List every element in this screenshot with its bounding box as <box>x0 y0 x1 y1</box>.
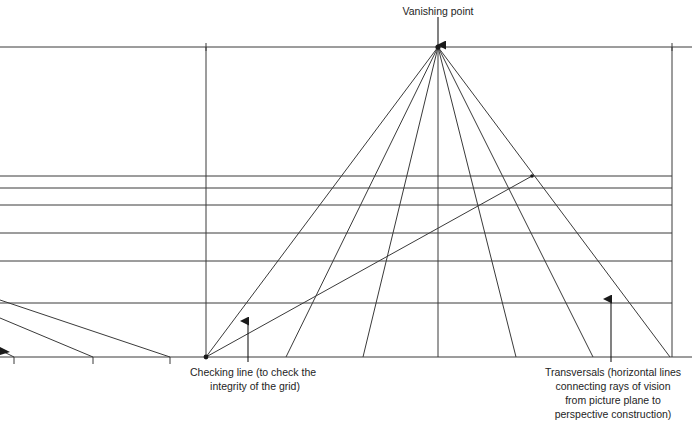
perspective-grid-diagram: Vanishing point Checking line (to check … <box>0 0 692 434</box>
vanishing-point-marker <box>435 44 440 49</box>
ray-1 <box>206 47 438 357</box>
ray-6 <box>438 47 593 357</box>
perspective-construction-drawing: Vanishing point Checking line (to check … <box>0 0 692 434</box>
ray-7 <box>438 47 670 357</box>
transversals-label-line4: perspective construction) <box>555 408 672 420</box>
vertical-frame-lines <box>206 47 672 357</box>
checking-line <box>206 176 532 357</box>
checking-line-origin-dot <box>204 355 209 360</box>
checking-line-label-line2: integrity of the grid) <box>210 380 300 392</box>
checking-line-label-line1: Checking line (to check the <box>190 366 316 378</box>
ray-3 <box>363 47 438 357</box>
transversals-label-line3: from picture plane to <box>565 394 661 406</box>
baseline-group <box>0 357 692 364</box>
ray-5 <box>438 47 516 357</box>
transversal-lines <box>0 176 672 303</box>
vanishing-point-label: Vanishing point <box>402 5 473 17</box>
transversals-label-line2: connecting rays of vision <box>556 380 671 392</box>
vanishing-rays <box>206 47 670 357</box>
ray-2 <box>286 47 438 357</box>
transversals-label-line1: Transversals (horizontal lines <box>545 366 681 378</box>
checking-line-end-dot <box>530 174 534 178</box>
plan-diagonals <box>0 300 170 357</box>
horizon-line-group <box>0 43 692 51</box>
left-diagonal-2 <box>0 318 93 357</box>
